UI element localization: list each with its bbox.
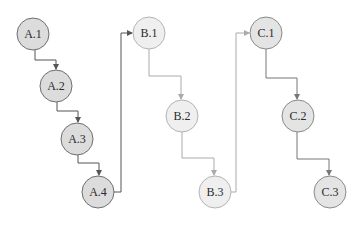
edge-a4-b1 [114,33,132,192]
node-c3[interactable]: C.3 [314,176,346,208]
node-c2[interactable]: C.2 [282,100,314,132]
node-label: C.3 [321,185,338,199]
node-label: A.1 [24,27,42,41]
edge-b3-c1 [231,33,249,192]
node-label: A.3 [68,132,86,146]
node-a4[interactable]: A.4 [82,176,114,208]
node-c1[interactable]: C.1 [250,17,282,49]
edge-b1-b2 [149,49,181,99]
node-label: C.1 [257,26,274,40]
node-a1[interactable]: A.1 [17,18,49,50]
node-label: C.2 [289,109,306,123]
node-label: B.2 [173,109,190,123]
node-b1[interactable]: B.1 [133,17,165,49]
node-a2[interactable]: A.2 [40,70,72,102]
node-label: A.2 [47,79,65,93]
node-label: A.4 [89,185,107,199]
node-a3[interactable]: A.3 [61,123,93,155]
edge-a1-a2 [35,50,56,69]
node-b3[interactable]: B.3 [199,176,231,208]
edge-b2-b3 [182,132,214,175]
edge-c2-c3 [297,132,329,175]
flow-diagram: A.1 A.2 A.3 A.4 B.1 B.2 B.3 C.1 C.2 C.3 [0,0,359,225]
edge-c1-c2 [266,49,297,99]
edge-a2-a3 [57,102,78,122]
edge-a3-a4 [78,155,99,175]
node-label: B.3 [206,185,223,199]
node-label: B.1 [140,26,157,40]
node-b2[interactable]: B.2 [166,100,198,132]
